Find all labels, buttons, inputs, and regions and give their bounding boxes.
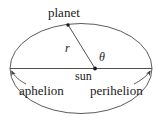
sun-point-marker — [93, 67, 97, 71]
angle-theta-label: θ — [99, 51, 105, 63]
planet-point-marker — [66, 23, 69, 26]
radius-vector-line — [69, 26, 96, 69]
sun-label: sun — [75, 70, 92, 82]
orbit-diagram-svg — [0, 0, 163, 125]
aphelion-label: aphelion — [19, 84, 64, 97]
perihelion-label: perihelion — [90, 84, 143, 97]
planet-label: planet — [48, 6, 80, 19]
radius-label: r — [65, 42, 70, 54]
orbit-diagram-figure: planet r θ sun aphelion perihelion — [0, 0, 163, 125]
